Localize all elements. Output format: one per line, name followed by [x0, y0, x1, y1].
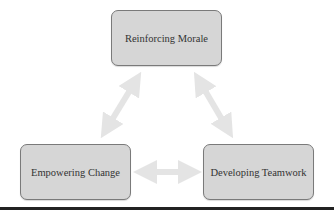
- arrow-top-left: [107, 82, 135, 128]
- node-empowering-change: Empowering Change: [20, 144, 131, 200]
- node-label: Developing Teamwork: [210, 167, 306, 178]
- node-label: Empowering Change: [31, 167, 120, 178]
- bottom-rule: [0, 207, 334, 210]
- node-label: Reinforcing Morale: [125, 33, 208, 44]
- node-reinforcing-morale: Reinforcing Morale: [111, 10, 222, 66]
- arrow-top-right: [200, 82, 227, 128]
- node-developing-teamwork: Developing Teamwork: [203, 144, 314, 200]
